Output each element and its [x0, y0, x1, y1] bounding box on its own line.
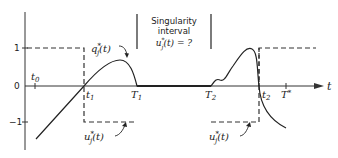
q-arrowhead-icon — [125, 53, 130, 58]
control-curve-u — [27, 48, 137, 122]
label-T2: T2 — [205, 89, 217, 102]
label-t1: t1 — [86, 89, 95, 102]
label-u-curve-left: u*j(t) — [84, 130, 104, 145]
u-left-label-arrow-icon — [115, 125, 125, 136]
switching-function-diagram: t 1 0 −1 Singularity interval u*j(t) = ?… — [0, 0, 338, 158]
annotation-line2: interval — [158, 26, 190, 36]
y-tick-label-minus1: −1 — [9, 117, 22, 127]
u-left-arrowhead-icon — [122, 122, 127, 127]
y-tick-label-1: 1 — [14, 43, 20, 53]
y-tick-label-0: 0 — [14, 81, 20, 91]
diagram-canvas: t 1 0 −1 Singularity interval u*j(t) = ?… — [0, 0, 338, 158]
label-u-curve-right: u*j(t) — [209, 130, 229, 145]
label-t2: t2 — [262, 89, 271, 102]
label-q-curve: q*j(t) — [91, 42, 111, 57]
label-T1: T1 — [131, 89, 142, 102]
u-right-arrowhead-icon — [246, 122, 251, 127]
x-axis-label: t — [327, 80, 332, 93]
annotation-line1: Singularity — [151, 16, 197, 26]
label-t0: t0 — [31, 71, 40, 84]
annotation-line3: u*j(t) = ? — [156, 36, 193, 51]
label-Tstar: T* — [281, 89, 292, 100]
u-right-label-arrow-icon — [240, 125, 249, 136]
x-axis-arrow-icon — [314, 83, 324, 89]
control-curve-u-second — [211, 48, 316, 122]
